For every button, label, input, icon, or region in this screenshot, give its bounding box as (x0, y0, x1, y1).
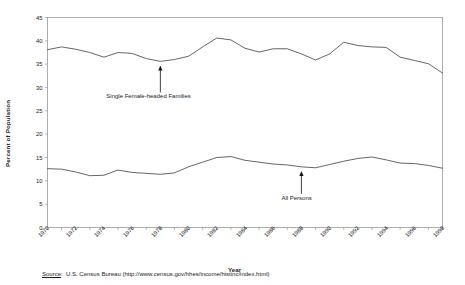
y-tick-label: 40 (21, 38, 43, 44)
y-tick-label: 35 (21, 61, 43, 67)
series-annotation-label: All Persons (281, 195, 311, 202)
axis-tick-marks (45, 18, 443, 231)
y-tick-label: 5 (21, 201, 43, 207)
y-tick-label: 25 (21, 108, 43, 114)
plot-area (0, 0, 465, 285)
annotation-arrows (158, 66, 303, 194)
chart-figure: Percent of Population Year 0510152025303… (0, 0, 465, 285)
plot-frame (48, 18, 443, 228)
y-tick-label: 15 (21, 155, 43, 161)
y-tick-label: 0 (21, 225, 43, 231)
series-annotation-label: Single Female-headed Families (106, 93, 190, 100)
y-axis-title: Percent of Population (0, 78, 14, 188)
source-label: Source (42, 271, 61, 277)
y-tick-label: 45 (21, 15, 43, 21)
source-text: U.S. Census Bureau (http://www.census.go… (66, 271, 269, 277)
data-series-lines (48, 38, 443, 176)
y-tick-label: 30 (21, 85, 43, 91)
y-tick-label: 10 (21, 178, 43, 184)
source-separator: : (61, 271, 63, 277)
source-note: Source: U.S. Census Bureau (http://www.c… (42, 270, 269, 278)
y-tick-label: 20 (21, 131, 43, 137)
